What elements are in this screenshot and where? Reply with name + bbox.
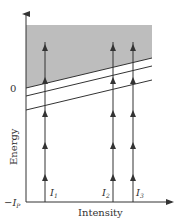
intensity-label-1: I1: [49, 187, 58, 199]
photon-arrowhead-icon: [110, 174, 116, 181]
intensity-label-3: I3: [135, 187, 144, 199]
photon-arrowhead-icon: [110, 142, 116, 149]
photon-arrowhead-icon: [130, 142, 136, 149]
y-axis-label: Energy: [8, 128, 19, 165]
photon-arrowhead-icon: [42, 174, 48, 181]
zero-tick-label: 0: [10, 83, 16, 94]
photon-arrowhead-icon: [110, 77, 116, 84]
intensity-label-2: I2: [101, 187, 110, 199]
bottom-tick-label: −IP: [4, 197, 21, 209]
photon-arrowhead-icon: [110, 110, 116, 117]
photon-arrowhead-icon: [130, 77, 136, 84]
photon-arrowhead-icon: [42, 110, 48, 117]
photon-arrowhead-icon: [130, 110, 136, 117]
x-axis-arrow-icon: [166, 199, 174, 205]
photon-arrowhead-icon: [130, 174, 136, 181]
photon-arrowhead-icon: [42, 142, 48, 149]
energy-intensity-diagram: 0 −IP Energy Intensity I1 I2 I3: [0, 0, 179, 222]
x-axis-label: Intensity: [78, 207, 123, 218]
